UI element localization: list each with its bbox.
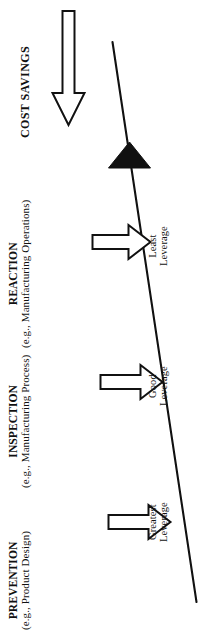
prevention-example: (e.g., Product Design) [19, 531, 31, 630]
leverage-least-suffix: Leverage [157, 226, 168, 266]
diagram-canvas: PREVENTION (e.g., Product Design) INSPEC… [0, 0, 211, 638]
reaction-title: REACTION [6, 242, 18, 305]
leverage-least-word: Least [146, 226, 157, 266]
prevention-title: PREVENTION [6, 542, 18, 620]
inspection-title: INSPECTION [6, 385, 18, 458]
category-label-prevention: PREVENTION (e.g., Product Design) [6, 531, 31, 630]
reaction-example: (e.g., Manufacturing Operations) [19, 200, 31, 348]
leverage-greatest-suffix: Leverage [157, 502, 168, 542]
category-label-reaction: REACTION (e.g., Manufacturing Operations… [6, 200, 31, 348]
cost-savings-arrow-icon [52, 11, 84, 125]
leverage-good-word: Good [146, 366, 157, 406]
leverage-label-greatest: Greatest Leverage [146, 502, 169, 542]
category-label-inspection: INSPECTION (e.g., Manufacturing Process) [6, 355, 31, 488]
leverage-label-least: Least Leverage [146, 226, 169, 266]
leverage-label-good: Good Leverage [146, 366, 169, 406]
leverage-good-suffix: Leverage [157, 366, 168, 406]
leverage-greatest-word: Greatest [146, 502, 157, 542]
solid-triangle-marker-icon [108, 142, 150, 168]
rotated-diagram-group: PREVENTION (e.g., Product Design) INSPEC… [0, 0, 211, 638]
inspection-example: (e.g., Manufacturing Process) [19, 355, 31, 488]
cost-savings-label: COST SAVINGS [18, 46, 31, 138]
